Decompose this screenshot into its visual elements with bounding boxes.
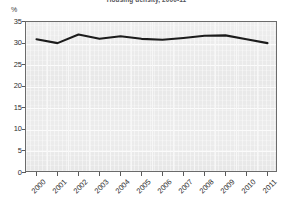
x-axis-tick-mark bbox=[225, 172, 226, 176]
data-series-line bbox=[37, 35, 268, 44]
x-axis-tick-mark bbox=[204, 172, 205, 176]
x-axis-tick-label: 2002 bbox=[65, 178, 89, 202]
y-axis-tick-label: 0 bbox=[8, 169, 22, 176]
line-chart: Housing density, 2000-11 % 0510152025303… bbox=[0, 0, 293, 208]
x-axis-tick-label: 2010 bbox=[233, 178, 257, 202]
y-axis-tick-label: 30 bbox=[8, 39, 22, 46]
data-series-svg bbox=[26, 22, 277, 172]
y-axis-tick-label: 25 bbox=[8, 61, 22, 68]
y-axis-tick-label: 5 bbox=[8, 147, 22, 154]
x-axis-tick-mark bbox=[162, 172, 163, 176]
plot-area bbox=[25, 21, 277, 172]
x-axis-tick-mark bbox=[78, 172, 79, 176]
x-axis-tick-label: 2008 bbox=[191, 178, 215, 202]
x-axis-tick-label: 2006 bbox=[149, 178, 173, 202]
x-axis-tick-mark bbox=[57, 172, 58, 176]
x-axis-tick-label: 2007 bbox=[170, 178, 194, 202]
x-axis-tick-label: 2009 bbox=[212, 178, 236, 202]
y-axis-unit-label: % bbox=[11, 6, 17, 13]
x-axis-tick-mark bbox=[183, 172, 184, 176]
y-axis-tick-label: 35 bbox=[8, 18, 22, 25]
y-axis-tick-label: 20 bbox=[8, 82, 22, 89]
x-axis-tick-mark bbox=[99, 172, 100, 176]
x-axis-tick-mark bbox=[246, 172, 247, 176]
y-axis-tick-mark bbox=[22, 172, 26, 173]
x-axis-tick-mark bbox=[120, 172, 121, 176]
x-axis-tick-mark bbox=[36, 172, 37, 176]
y-axis-tick-label: 15 bbox=[8, 104, 22, 111]
x-axis-tick-label: 2004 bbox=[107, 178, 131, 202]
chart-title: Housing density, 2000-11 bbox=[0, 0, 293, 4]
x-axis-tick-label: 2005 bbox=[128, 178, 152, 202]
x-axis-tick-label: 2003 bbox=[86, 178, 110, 202]
x-axis-tick-mark bbox=[141, 172, 142, 176]
y-axis-tick-label: 10 bbox=[8, 125, 22, 132]
x-axis-tick-label: 2001 bbox=[44, 178, 68, 202]
x-axis-tick-label: 2000 bbox=[23, 178, 47, 202]
x-axis-tick-label: 2011 bbox=[254, 178, 278, 202]
x-axis-tick-mark bbox=[267, 172, 268, 176]
